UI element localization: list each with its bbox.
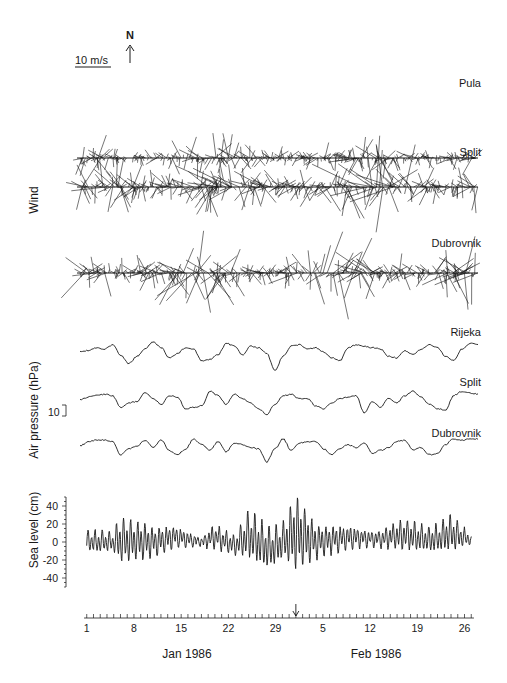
station-label-pula: Pula [459, 77, 482, 89]
wind-stick-plots [61, 133, 482, 319]
pressure-traces [80, 342, 478, 463]
y-tick-label: -20 [43, 554, 58, 566]
wind-scale-legend: 10 m/s N [75, 29, 134, 67]
air-pressure-panel: Air pressure (hPa) 10 Rijeka Split Dubro… [27, 326, 482, 463]
x-tick-label: 22 [223, 622, 235, 634]
north-arrow-icon [126, 45, 134, 63]
wind-scale-label: 10 m/s [75, 54, 109, 66]
x-tick-label: 15 [175, 622, 187, 634]
pressure-trace-split [80, 391, 478, 415]
x-tick-label: 19 [411, 622, 423, 634]
pressure-axis-title: Air pressure (hPa) [27, 361, 41, 458]
x-tick-label: 12 [364, 622, 376, 634]
wind-sticks-dubrovnik [61, 231, 480, 319]
month-label-feb: Feb 1986 [351, 647, 402, 661]
sea-axis-title: Sea level (cm) [27, 492, 41, 569]
x-tick-label: 26 [459, 622, 471, 634]
sea-level-trace [87, 498, 472, 569]
pressure-trace-rijeka [80, 342, 478, 371]
wind-axis-title: Wind [27, 186, 41, 213]
north-label: N [126, 29, 134, 41]
sea-level-panel: Sea level (cm) 40200-20-40 1815222951219… [27, 492, 474, 661]
x-tick-label: 5 [320, 622, 326, 634]
pressure-scale-bracket [62, 405, 66, 416]
x-tick-label: 8 [131, 622, 137, 634]
month-label-jan: Jan 1986 [162, 647, 212, 661]
pressure-scale-label: 10 [48, 406, 60, 418]
event-arrow-icon [293, 604, 299, 616]
x-tick-label: 1 [84, 622, 90, 634]
station-label-dubrovnik-pressure: Dubrovnik [431, 427, 481, 439]
wind-panel: Wind Pula Split Dubrovnik [27, 77, 482, 319]
wind-sticks-split [66, 136, 478, 233]
station-label-rijeka: Rijeka [450, 326, 481, 338]
y-tick-label: 20 [46, 518, 58, 530]
x-tick-label: 29 [270, 622, 282, 634]
figure: 10 m/s N Wind Pula Split Dubrovnik Air p… [0, 0, 507, 683]
y-tick-label: -40 [43, 572, 58, 584]
sea-y-axis: 40200-20-40 [43, 497, 66, 587]
y-tick-label: 0 [52, 536, 58, 548]
wind-sticks-pula [73, 133, 482, 180]
y-tick-label: 40 [46, 500, 58, 512]
station-label-split-pressure: Split [460, 376, 481, 388]
pressure-trace-dubrovnik [80, 439, 478, 463]
time-x-axis: 181522295121926 [84, 614, 474, 634]
station-label-split-wind: Split [460, 146, 481, 158]
station-label-dubrovnik-wind: Dubrovnik [431, 237, 481, 249]
